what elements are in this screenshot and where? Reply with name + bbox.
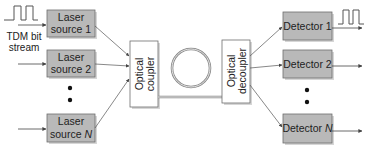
svg-text:source 2: source 2 <box>51 63 91 75</box>
optical-fiber-spool <box>158 49 222 97</box>
laser-source-2: Laser source 2 <box>47 50 97 79</box>
svg-text:source 1: source 1 <box>51 23 91 35</box>
svg-text:coupler: coupler <box>144 56 156 91</box>
laser-source-1: Laser source 1 <box>47 10 97 39</box>
detector-2: Detector 2 <box>283 50 334 80</box>
svg-text:Detector 1: Detector 1 <box>283 20 332 32</box>
ellipsis-dot-right-1 <box>305 88 309 92</box>
ellipsis-dot-left-1 <box>68 86 72 90</box>
ellipsis-dot-right-2 <box>305 100 309 104</box>
detector-1: Detector 1 <box>283 12 334 42</box>
detector-n: Detector N <box>282 114 334 145</box>
svg-text:Laser: Laser <box>58 51 85 63</box>
laser-source-n: Laser source N <box>47 114 97 144</box>
optical-decoupler: Optical decoupler <box>222 40 252 105</box>
tdm-bit-stream-label-2: stream <box>9 42 40 53</box>
tdm-bit-stream-label: TDM bit <box>7 31 42 42</box>
svg-text:Detector 2: Detector 2 <box>283 58 332 70</box>
svg-text:decoupler: decoupler <box>236 47 248 94</box>
link-decoupler-detector2 <box>250 65 282 68</box>
svg-text:Laser: Laser <box>58 11 85 23</box>
link-sourceN-coupler <box>95 79 129 128</box>
svg-text:source N: source N <box>50 128 92 140</box>
link-decoupler-detectorN <box>250 85 282 127</box>
link-source2-coupler <box>95 64 129 66</box>
tdm-diagram: TDM bit stream Laser source 1 Laser sour… <box>0 0 374 158</box>
input-pulse-waveform-icon <box>4 6 38 20</box>
svg-text:Detector N: Detector N <box>282 122 333 134</box>
link-source1-coupler <box>95 26 129 56</box>
output-pulse-waveform-icon <box>338 10 364 24</box>
svg-text:Laser: Laser <box>58 115 85 127</box>
ellipsis-dot-left-2 <box>68 98 72 102</box>
link-decoupler-detector1 <box>250 27 282 56</box>
optical-coupler: Optical coupler <box>130 41 160 109</box>
